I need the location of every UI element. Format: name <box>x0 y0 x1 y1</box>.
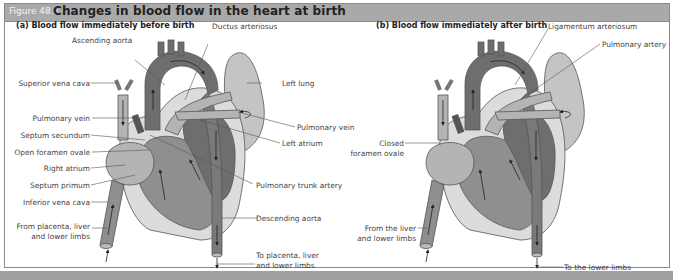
label-descending-aorta: Descending aorta <box>256 214 321 223</box>
label-to-placenta-line1: To placenta, liver <box>256 251 319 260</box>
label-from-placenta-line2: and lower limbs <box>6 232 90 241</box>
label-closed-line1: Closed <box>340 139 404 148</box>
label-ligamentum-arteriosum: Ligamentum arteriosum <box>548 22 637 31</box>
label-from-placenta-line1: From placenta, liver <box>6 222 90 231</box>
label-from-liver-line1: From the liver <box>340 224 416 233</box>
label-closed-line2: foramen ovale <box>340 149 404 158</box>
label-open-foramen-ovale: Open foramen ovale <box>6 148 90 157</box>
label-inferior-vena-cava: Inferior vena cava <box>6 198 90 207</box>
label-ascending-aorta: Ascending aorta <box>72 36 132 45</box>
heart-before-birth-illustration <box>100 40 264 257</box>
label-septum-secundum: Septum secundum <box>10 131 90 140</box>
label-septum-primum: Septum primum <box>10 181 90 190</box>
label-right-atrium: Right atrium <box>10 164 90 173</box>
label-to-placenta-line2: and lower limbs <box>256 261 315 270</box>
label-pulmonary-artery: Pulmonary artery <box>602 40 666 49</box>
panel-a-title: (a) Blood flow immediately before birth <box>16 21 194 30</box>
label-from-liver-line2: and lower limbs <box>340 234 416 243</box>
label-left-atrium: Left atrium <box>282 139 323 148</box>
label-to-lower-limbs: To the lower limbs <box>564 263 631 272</box>
label-ductus-arteriosus: Ductus arteriosus <box>212 22 277 31</box>
label-pulmonary-vein-b: Pulmonary vein <box>297 123 354 132</box>
label-pulmonary-vein-a: Pulmonary vein <box>10 114 90 123</box>
label-superior-vena-cava: Superior vena cava <box>10 79 90 88</box>
panel-b-title: (b) Blood flow immediately after birth <box>376 21 547 30</box>
label-pulmonary-trunk-artery: Pulmonary trunk artery <box>256 181 342 190</box>
label-left-lung: Left lung <box>282 79 314 88</box>
